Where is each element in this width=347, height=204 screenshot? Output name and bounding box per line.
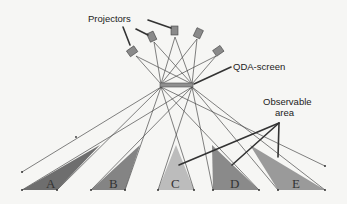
projector-icon bbox=[171, 26, 178, 35]
area-a-label: A bbox=[46, 176, 56, 191]
area-c-label: C bbox=[171, 176, 180, 191]
area-d-label: D bbox=[230, 176, 239, 191]
projector-icon bbox=[193, 28, 203, 39]
observable-label-line2: area bbox=[275, 107, 295, 118]
observable-label-line1: Observable bbox=[263, 96, 312, 107]
projectors bbox=[126, 26, 224, 57]
projector-icon bbox=[126, 46, 137, 57]
area-e bbox=[250, 145, 325, 190]
qda-screen bbox=[160, 83, 193, 87]
projector-icon bbox=[147, 31, 157, 42]
projector-rays bbox=[136, 37, 216, 84]
projectors-label: Projectors bbox=[88, 13, 131, 24]
projector-icon bbox=[213, 45, 224, 56]
qda-screen-label: QDA-screen bbox=[233, 61, 285, 72]
area-b-label: B bbox=[109, 176, 118, 191]
qda-projection-diagram: Projectors QDA-screen Observable area A … bbox=[0, 0, 347, 204]
area-e-label: E bbox=[292, 176, 300, 191]
pointer-lines bbox=[123, 20, 279, 165]
